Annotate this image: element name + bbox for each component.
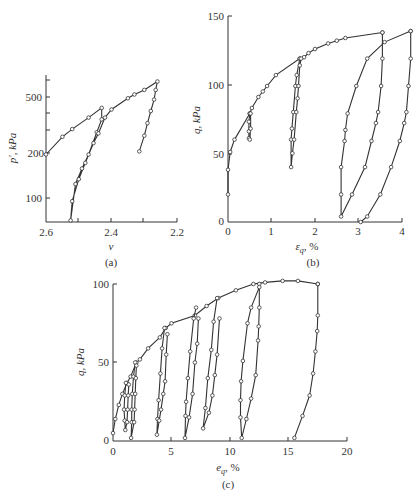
data-point-marker (257, 325, 261, 329)
data-point-marker (211, 394, 215, 398)
data-point-marker (274, 73, 278, 77)
data-point-marker (315, 329, 319, 333)
data-point-marker (307, 51, 311, 55)
data-point-marker (293, 436, 297, 440)
data-point-marker (239, 416, 243, 420)
panel-c: 100 50 0 0 5 10 15 20 eq, % q, kPa (c) (74, 278, 353, 491)
data-point-marker (313, 47, 317, 51)
panel-b-plot (226, 29, 412, 224)
panel-b-ytick-0: 150 (208, 10, 225, 22)
data-point-marker (381, 31, 385, 35)
data-point-marker (163, 380, 167, 384)
data-point-marker (344, 128, 348, 132)
data-point-marker (117, 403, 121, 407)
data-point-marker (297, 84, 301, 88)
data-point-marker (154, 88, 158, 92)
data-point-marker (87, 153, 91, 157)
data-point-marker (197, 317, 201, 321)
data-point-marker (114, 417, 118, 421)
panel-c-xtick-0: 0 (110, 445, 116, 457)
data-point-marker (240, 436, 244, 440)
data-point-marker (149, 109, 153, 113)
data-point-marker (363, 165, 367, 169)
data-point-marker (248, 138, 252, 142)
data-point-marker (184, 414, 188, 418)
data-point-marker (407, 84, 411, 88)
panel-a-axis-lines (46, 75, 177, 222)
data-point-marker (44, 153, 48, 157)
data-point-marker (296, 97, 300, 101)
data-point-marker (374, 121, 378, 125)
panel-b-xtick-4: 4 (399, 225, 405, 237)
panel-b-xtick-0: 0 (225, 225, 231, 237)
data-point-marker (218, 317, 222, 321)
panel-b-ylabel: q, kPa (190, 105, 202, 134)
data-point-marker (204, 406, 208, 410)
data-point-marker (160, 347, 164, 351)
data-point-marker (152, 98, 156, 102)
panel-c-axis-lines (113, 284, 347, 441)
data-point-marker (252, 282, 256, 286)
data-point-marker (379, 193, 383, 197)
data-point-marker (183, 436, 187, 440)
panel-b-xtick-1: 1 (268, 225, 274, 237)
data-point-marker (206, 376, 210, 380)
data-point-marker (103, 116, 107, 120)
data-point-marker (346, 112, 350, 116)
data-point-marker (193, 361, 197, 365)
data-point-marker (239, 398, 243, 402)
data-point-marker (295, 110, 299, 114)
data-point-marker (100, 106, 104, 110)
data-point-marker (215, 353, 219, 357)
data-point-marker (146, 121, 150, 125)
data-point-marker (97, 132, 101, 136)
panel-c-axes (113, 284, 347, 441)
data-point-marker (365, 57, 369, 61)
data-point-marker (156, 80, 160, 84)
data-point-marker (226, 193, 230, 197)
data-point-marker (188, 350, 192, 354)
data-point-marker (132, 420, 136, 424)
data-point-marker (61, 135, 65, 139)
data-point-marker (291, 152, 295, 156)
panel-b: 150 100 50 0 0 1 2 3 4 εq, % q, kPa (b) (190, 10, 413, 269)
data-point-marker (246, 322, 250, 326)
data-point-marker (281, 279, 285, 283)
data-point-marker (299, 57, 303, 61)
panel-a-caption: (a) (105, 256, 118, 269)
panel-a-axes (46, 75, 177, 222)
data-point-marker (245, 417, 249, 421)
data-point-marker (195, 342, 199, 346)
data-point-marker (157, 398, 161, 402)
data-point-marker (381, 57, 385, 61)
series-line-loop-6.8 (185, 308, 198, 438)
data-point-marker (234, 289, 238, 293)
panel-c-ytick-0: 100 (93, 278, 110, 290)
panel-a: 2.6 2.4 2.2 500 200 100 v p′, kPa (a) (6, 75, 184, 269)
data-point-marker (146, 347, 150, 351)
data-point-marker (184, 400, 188, 404)
data-point-marker (74, 182, 78, 186)
data-point-marker (228, 150, 232, 154)
data-point-marker (69, 219, 73, 223)
data-point-marker (265, 84, 269, 88)
panel-a-ylabel: p′, kPa (6, 132, 18, 164)
data-point-marker (233, 138, 237, 142)
panel-c-xtick-4: 20 (342, 445, 354, 457)
data-point-marker (164, 353, 168, 357)
data-point-marker (290, 127, 294, 131)
data-point-marker (355, 84, 359, 88)
data-point-marker (134, 376, 138, 380)
data-point-marker (241, 359, 245, 363)
panel-c-xtick-2: 10 (225, 445, 237, 457)
panel-a-xtick-0: 2.6 (39, 226, 53, 238)
data-point-marker (138, 150, 142, 154)
data-point-marker (215, 296, 219, 300)
panel-b-xlabel: εq, % (295, 240, 318, 255)
data-point-marker (398, 139, 402, 143)
data-point-marker (339, 215, 343, 219)
data-point-marker (365, 215, 369, 219)
panel-c-plot (111, 279, 319, 440)
data-point-marker (187, 416, 191, 420)
data-point-marker (110, 108, 114, 112)
